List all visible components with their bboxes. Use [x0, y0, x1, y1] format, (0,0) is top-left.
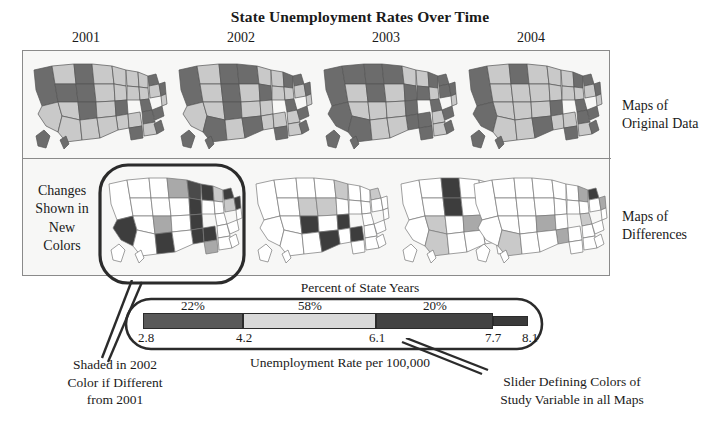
- slider-segment-3[interactable]: [376, 313, 493, 329]
- caption-differences-line-2: Differences: [622, 226, 687, 244]
- color-slider[interactable]: [143, 313, 528, 329]
- changes-shown-label: Changes Shown in New Colors: [26, 182, 98, 256]
- map-difference-2004[interactable]: [468, 168, 608, 268]
- slider-segment-2[interactable]: [243, 313, 376, 329]
- slider-segment-tail[interactable]: [493, 316, 528, 326]
- page-title: State Unemployment Rates Over Time: [0, 8, 720, 26]
- note-right-line-2: Study Variable in all Maps: [452, 391, 692, 409]
- note-right-line-1: Slider Defining Colors of: [452, 373, 692, 391]
- map-difference-2002[interactable]: [250, 168, 390, 268]
- unemployment-rate-axis-label: Unemployment Rate per 100,000: [175, 355, 505, 371]
- map-original-2002[interactable]: [173, 54, 313, 154]
- caption-original-line-2: Original Data: [622, 115, 699, 133]
- map-original-2003[interactable]: [318, 54, 458, 154]
- changes-line-3: New: [26, 219, 98, 237]
- slider-tick-7-7: 7.7: [473, 330, 513, 346]
- annotation-slider-defining-colors: Slider Defining Colors of Study Variable…: [452, 373, 692, 408]
- slider-tick-8-1: 8.1: [510, 330, 550, 346]
- year-label-2004: 2004: [486, 30, 576, 46]
- note-left-line-3: from 2001: [20, 391, 210, 409]
- note-left-line-2: Color if Different: [20, 374, 210, 392]
- caption-maps-of-original-data: Maps of Original Data: [622, 97, 699, 133]
- changes-line-1: Changes: [26, 182, 98, 200]
- year-label-2001: 2001: [41, 30, 131, 46]
- caption-original-line-1: Maps of: [622, 97, 699, 115]
- year-label-2003: 2003: [341, 30, 431, 46]
- figure-canvas: State Unemployment Rates Over Time 2001 …: [0, 0, 720, 432]
- map-difference-2001[interactable]: [103, 168, 243, 268]
- slider-tick-6-1: 6.1: [357, 330, 397, 346]
- segment-pct-2: 58%: [280, 298, 340, 314]
- percent-of-state-years-label: Percent of State Years: [0, 280, 720, 296]
- caption-differences-line-1: Maps of: [622, 208, 687, 226]
- slider-segment-1[interactable]: [143, 313, 243, 329]
- changes-line-4: Colors: [26, 237, 98, 255]
- map-original-2004[interactable]: [463, 54, 603, 154]
- year-label-2002: 2002: [196, 30, 286, 46]
- note-left-line-1: Shaded in 2002: [20, 356, 210, 374]
- segment-pct-3: 20%: [405, 298, 465, 314]
- annotation-shaded-in-2002: Shaded in 2002 Color if Different from 2…: [20, 356, 210, 409]
- map-original-2001[interactable]: [28, 54, 168, 154]
- maps-row-divider: [22, 158, 611, 159]
- segment-pct-1: 22%: [163, 298, 223, 314]
- changes-line-2: Shown in: [26, 200, 98, 218]
- slider-tick-4-2: 4.2: [224, 330, 264, 346]
- slider-tick-2-8: 2.8: [126, 330, 166, 346]
- caption-maps-of-differences: Maps of Differences: [622, 208, 687, 244]
